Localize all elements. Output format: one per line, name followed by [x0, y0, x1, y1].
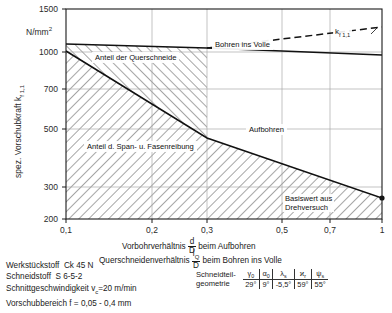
x-axis-fraction-lQD-numerator: lQ — [192, 250, 200, 262]
cutting-geometry-block: Schneidteil- geometrie γ0 α0 λs ϰr ψs 29… — [196, 269, 328, 289]
specifications-block: Werkstückstoff Ck 45 N Schneidstoff S 6-… — [6, 260, 137, 309]
geom-value-psi-s: 55° — [312, 280, 329, 290]
y-axis-unit-exponent: 2 — [49, 25, 52, 32]
spec-feed-range-label: Vorschubbereich — [6, 299, 67, 308]
y-tick-700: 700 — [24, 84, 58, 94]
y-axis-ticks — [62, 9, 66, 219]
annotation-aufbohren: Aufbohren — [246, 124, 287, 135]
geom-header-alpha0: α0 — [259, 269, 272, 280]
geom-value-kappa-r: 59° — [294, 280, 311, 290]
cutting-geometry-value-row: 29° 9° -5,5° 59° 55° — [243, 280, 329, 290]
spec-cutting-speed: Schnittgeschwindigkeit vc=20 m/min — [6, 283, 137, 298]
spec-cutting-speed-label: Schnittgeschwindigkeit — [6, 284, 89, 293]
y-axis-title: spez. Vorschubkraft kf 1,1 — [13, 85, 25, 178]
geom-header-lambda-s: λs — [273, 269, 295, 280]
x-axis-fraction-lQD: lQD — [192, 250, 200, 270]
x-tick-0-3: 0,3 — [193, 225, 221, 235]
spec-cutting-material-value: S 6-5-2 — [55, 272, 82, 281]
y-axis-unit: N/mm2 — [26, 25, 52, 37]
x-tick-1: 1 — [368, 225, 392, 235]
y-tick-300: 300 — [24, 182, 58, 192]
spec-workpiece-material-label: Werkstückstoff — [6, 261, 59, 270]
y-tick-500: 500 — [24, 124, 58, 134]
spec-cutting-speed-value: =20 m/min — [98, 284, 136, 293]
spec-workpiece-material-value: Ck 45 N — [64, 261, 94, 270]
annotation-anteil-querschneide: Anteil der Querschneide — [92, 52, 179, 63]
spec-feed-range-value: = 0,05 - 0,4 mm — [74, 299, 132, 308]
annotation-basiswert-line2: Drehversuch — [285, 203, 332, 212]
x-axis-ticks — [66, 219, 382, 223]
cutting-geometry-header-row: γ0 α0 λs ϰr ψs — [243, 269, 329, 280]
y-axis-title-text: spez. Vorschubkraft k — [13, 97, 23, 178]
spec-cutting-material: Schneidstoff S 6-5-2 — [6, 271, 137, 282]
spec-feed-range-symbol: f — [69, 299, 71, 308]
x-tick-0-2: 0,2 — [138, 225, 166, 235]
annotation-bohren-ins-volle: Bohren ins Volle — [212, 39, 273, 50]
cutting-geometry-caption: Schneidteil- geometrie — [196, 270, 236, 289]
y-tick-1500: 1500 — [24, 4, 58, 14]
geom-header-psi-s: ψs — [312, 269, 329, 280]
geom-header-kappa-r: ϰr — [294, 269, 311, 280]
annotation-kf11: kf 1,1 — [333, 27, 352, 38]
annotation-basiswert-line1: Basiswert aus — [285, 194, 332, 203]
cutting-geometry-caption-line1: Schneidteil- — [196, 270, 236, 280]
annotation-anteil-span-fasenreibung: Anteil d. Span- u. Fasenreibung — [84, 141, 197, 152]
x-tick-0-1: 0,1 — [52, 225, 80, 235]
cutting-geometry-table: γ0 α0 λs ϰr ψs 29° 9° -5,5° 59° 55° — [243, 269, 329, 289]
x-axis-title-line2-b: beim Bohren ins Volle — [203, 256, 282, 265]
spec-cutting-material-label: Schneidstoff — [6, 272, 51, 281]
y-tick-200: 200 — [24, 214, 58, 224]
cutting-geometry-caption-line2: geometrie — [196, 279, 236, 289]
annotation-basiswert: Basiswert aus Drehversuch — [283, 194, 334, 212]
y-tick-1000: 1000 — [24, 47, 58, 57]
spec-feed-range: Vorschubbereich f = 0,05 - 0,4 mm — [6, 298, 137, 309]
x-tick-0-5: 0,5 — [268, 225, 296, 235]
y-axis-unit-text: N/mm — [26, 27, 49, 37]
y-axis-title-subscript: f 1,1 — [18, 85, 25, 97]
spec-workpiece-material: Werkstückstoff Ck 45 N — [6, 260, 137, 271]
x-tick-0-7: 0,7 — [316, 225, 344, 235]
annotation-kf11-subscript: f 1,1 — [339, 32, 350, 38]
geom-value-alpha0: 9° — [259, 280, 272, 290]
geom-value-gamma0: 29° — [243, 280, 260, 290]
geom-value-lambda-s: -5,5° — [273, 280, 295, 290]
geom-header-gamma0: γ0 — [243, 269, 260, 280]
